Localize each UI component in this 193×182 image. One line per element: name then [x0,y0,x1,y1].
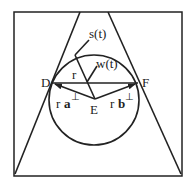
label-ra-perp: ⊥ [71,91,80,102]
label-rb-perp: ⊥ [125,91,134,102]
label-w: w(t) [96,56,118,71]
label-s: s(t) [89,26,106,41]
label-rb-r: r [110,96,115,111]
label-F: F [142,75,149,90]
s-pointer [75,40,89,55]
label-E: E [90,102,98,117]
label-ra-r: r [56,96,61,111]
right-tangent-line [108,12,181,174]
geometry-diagram: s(t) w(t) r D F E r a ⊥ r b ⊥ [0,0,193,182]
label-ra-a: a [64,96,71,111]
label-r: r [72,67,77,82]
label-D: D [41,75,50,90]
